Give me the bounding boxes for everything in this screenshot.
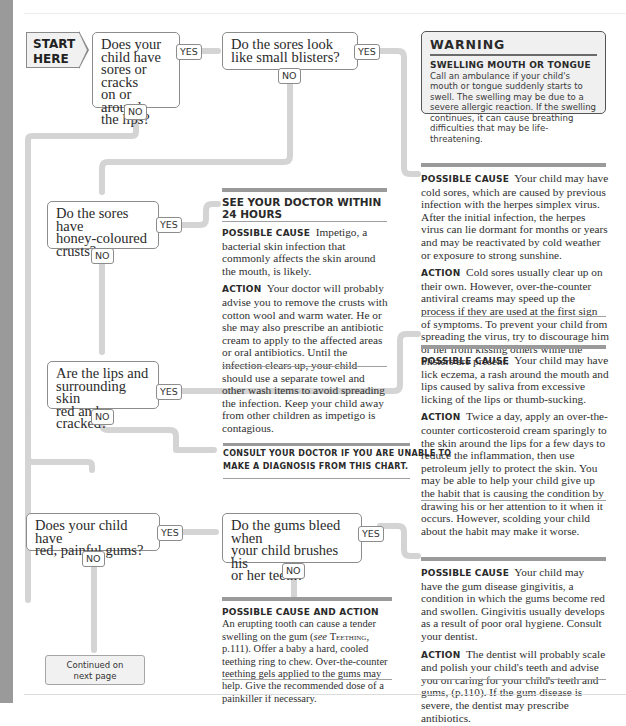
q6-no-label: NO [282, 563, 305, 579]
action-text: Your doctor will probably advise you to … [222, 282, 388, 434]
impetigo-advice: Possible cause Impetigo, a bacterial ski… [222, 226, 390, 440]
gingivitis-bottom-rule [421, 679, 606, 680]
cause-text: Your child may have cold sores, which ar… [421, 172, 608, 261]
q5-no-label: NO [82, 551, 105, 567]
q4-line: surrounding skin [56, 380, 150, 405]
q1-line: sores or cracks [101, 63, 171, 88]
warning-rule [430, 54, 597, 56]
q5-yes-label: YES [157, 525, 183, 541]
action-label: Action [421, 412, 460, 422]
impetigo-header-rule [222, 221, 387, 222]
action-label: Action [421, 268, 460, 278]
start-arrow-fill [79, 33, 87, 67]
cause-label: Possible cause [421, 174, 509, 184]
q5-line: Does your child have [35, 519, 151, 544]
question-red-painful-gums: Does your child have red, painful gums? [26, 513, 160, 551]
cold-sores-advice: Possible cause Your child may have cold … [421, 172, 609, 373]
lick-eczema-top-rule [421, 345, 606, 349]
q3-yes-label: YES [156, 217, 182, 233]
cold-sores-top-rule [421, 163, 606, 167]
q1-yes-label: YES [176, 44, 202, 60]
warning-box: WARNING Swelling mouth or tongue Call an… [421, 31, 606, 114]
question-sores-or-cracks: Does your child have sores or cracks on … [92, 32, 180, 108]
impetigo-urgency-header: SEE YOUR DOCTOR WITHIN 24 HOURS [222, 196, 381, 220]
cold-sores-bottom-rule [421, 316, 606, 317]
q4-yes-label: YES [156, 384, 182, 400]
see-ref: see [314, 631, 327, 642]
header-line: 24 HOURS [222, 208, 381, 220]
consult-doctor-note: Consult your doctor if you are unable to… [223, 447, 451, 473]
question-lips-red-cracked: Are the lips and surrounding skin red an… [47, 361, 159, 409]
cause-label: Possible cause [222, 228, 310, 238]
consult-line: make a diagnosis from this chart. [223, 460, 451, 473]
q1-no-label: NO [124, 104, 147, 120]
gingivitis-advice: Possible cause Your child may have the g… [421, 566, 607, 726]
question-gums-bleed: Do the gums bleed when your child brushe… [222, 513, 362, 563]
q3-line: Do the sores have [56, 207, 150, 232]
action-text: Twice a day, apply an over-the-counter c… [421, 410, 608, 536]
q4-no-label: NO [91, 409, 114, 425]
cause-label: Possible cause [421, 568, 509, 578]
consult-bottom-rule [223, 478, 410, 479]
teething-bottom-rule [222, 679, 392, 680]
warning-title: WARNING [430, 37, 597, 52]
question-honey-crusts: Do the sores have honey-coloured crusts? [47, 201, 159, 249]
consult-line: Consult your doctor if you are unable to [223, 447, 451, 460]
warning-lead: Swelling mouth or tongue [430, 60, 591, 70]
cause-label: Possible cause [421, 356, 509, 366]
q2-no-label: NO [278, 68, 301, 84]
action-label: Action [421, 650, 460, 660]
continued-line: Continued on [46, 660, 144, 671]
start-label-line2: HERE [33, 52, 80, 67]
header-line: SEE YOUR DOCTOR WITHIN [222, 196, 381, 208]
cause-action-label: Possible cause and action [222, 607, 379, 617]
teething-top-rule [222, 597, 392, 601]
warning-text: Call an ambulance if your child's mouth … [430, 71, 596, 144]
consult-top-rule [223, 443, 410, 446]
q6-line: Do the gums bleed when [231, 519, 353, 544]
q3-no-label: NO [91, 248, 114, 264]
bottom-rule [24, 694, 626, 695]
start-here-marker: START HERE [26, 32, 80, 68]
impetigo-top-rule [222, 188, 387, 192]
continued-next-page-box: Continued on next page [45, 655, 145, 685]
start-label-line1: START [33, 37, 80, 52]
teething-cross-ref: Teething [330, 631, 367, 642]
lick-eczema-bottom-rule [421, 500, 606, 501]
continued-line: next page [46, 671, 144, 682]
teething-advice: Possible cause and action An erupting to… [222, 606, 394, 705]
action-label: Action [222, 284, 261, 294]
q2-line: like small blisters? [231, 51, 349, 64]
q2-yes-label: YES [354, 44, 380, 60]
question-small-blisters: Do the sores look like small blisters? [222, 32, 358, 70]
impetigo-bottom-rule [222, 366, 387, 367]
q6-yes-label: YES [358, 526, 384, 542]
gingivitis-top-rule [421, 557, 606, 561]
warning-body: Swelling mouth or tongue Call an ambulan… [430, 60, 597, 144]
